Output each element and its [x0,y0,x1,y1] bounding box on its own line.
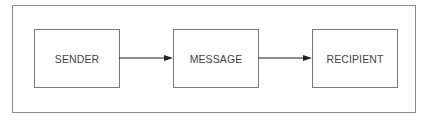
arrow-sender-to-message-icon [119,55,173,61]
edge-layer [0,0,425,120]
arrow-message-to-recipient-icon [258,55,312,61]
